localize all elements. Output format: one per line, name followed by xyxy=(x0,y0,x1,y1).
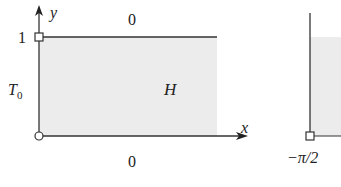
y-tick-label: 1 xyxy=(18,29,26,46)
left-boundary-value: T0 xyxy=(8,81,23,101)
circle-marker-icon xyxy=(35,132,43,140)
right-corner-label: −π/2 xyxy=(287,149,318,166)
diagram-canvas: y 1 0 T0 H x 0 −π/2 xyxy=(0,0,341,187)
region-h-fill xyxy=(39,37,217,136)
x-axis-label: x xyxy=(240,119,248,136)
top-boundary-value: 0 xyxy=(128,11,136,28)
square-marker-icon xyxy=(35,33,43,41)
right-region-fill xyxy=(310,37,341,136)
region-label: H xyxy=(163,80,178,99)
y-axis-label: y xyxy=(48,4,58,22)
right-square-marker-icon xyxy=(306,132,314,140)
bottom-boundary-value: 0 xyxy=(128,153,136,170)
